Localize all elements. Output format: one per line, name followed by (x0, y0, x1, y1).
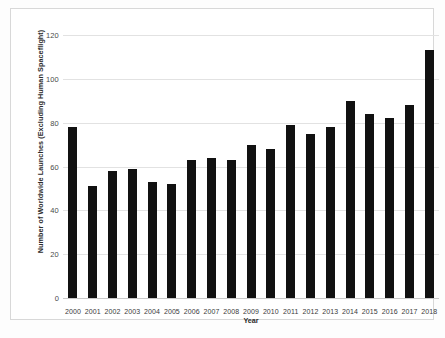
x-tick-label: 2014 (342, 308, 358, 315)
x-tick-label: 2009 (243, 308, 259, 315)
chart-frame: 020406080100120 Number of Worldwide Laun… (10, 8, 434, 320)
bar-slot (380, 35, 400, 298)
bar-slot (261, 35, 281, 298)
bar-slot (340, 35, 360, 298)
x-tick-slot: 2008 (221, 300, 241, 316)
bar-slot (202, 35, 222, 298)
x-tick-slot: 2006 (182, 300, 202, 316)
y-tick-label: 0 (25, 294, 59, 303)
x-tick-slot: 2015 (360, 300, 380, 316)
bar-slot (281, 35, 301, 298)
x-axis-title: Year (63, 316, 439, 325)
bar-slot (419, 35, 439, 298)
bar-slot (182, 35, 202, 298)
bar-slot (241, 35, 261, 298)
bar-2018[interactable] (425, 50, 434, 298)
x-tick-label: 2010 (263, 308, 279, 315)
x-tick-slot: 2011 (281, 300, 301, 316)
bar-series (63, 35, 439, 298)
bar-2006[interactable] (187, 160, 196, 298)
bar-slot (320, 35, 340, 298)
x-tick-label: 2011 (283, 308, 298, 315)
bar-slot (221, 35, 241, 298)
bar-slot (63, 35, 83, 298)
x-tick-label: 2001 (85, 308, 101, 315)
gridline-0 (63, 298, 439, 299)
bar-2010[interactable] (266, 149, 275, 298)
plot-area (63, 35, 439, 298)
x-tick-slot: 2009 (241, 300, 261, 316)
x-tick-slot: 2004 (142, 300, 162, 316)
bar-2003[interactable] (128, 169, 137, 298)
x-tick-label: 2006 (184, 308, 200, 315)
y-axis-title: Number of Worldwide Launches (Excluding … (36, 17, 45, 267)
bar-slot (360, 35, 380, 298)
x-tick-slot: 2007 (202, 300, 222, 316)
bar-2012[interactable] (306, 134, 315, 298)
x-tick-label: 2005 (164, 308, 180, 315)
x-tick-slot: 2003 (122, 300, 142, 316)
x-tick-slot: 2012 (301, 300, 321, 316)
x-tick-label: 2015 (362, 308, 378, 315)
bar-2014[interactable] (346, 101, 355, 298)
x-tick-label: 2017 (401, 308, 417, 315)
x-tick-label: 2002 (105, 308, 121, 315)
bar-2015[interactable] (365, 114, 374, 298)
x-tick-label: 2012 (302, 308, 318, 315)
bar-slot (162, 35, 182, 298)
x-tick-slot: 2000 (63, 300, 83, 316)
x-tick-slot: 2010 (261, 300, 281, 316)
bar-2002[interactable] (108, 171, 117, 298)
bar-slot (122, 35, 142, 298)
x-tick-label: 2018 (421, 308, 437, 315)
bar-2001[interactable] (88, 186, 97, 298)
x-tick-slot: 2014 (340, 300, 360, 316)
x-tick-slot: 2017 (400, 300, 420, 316)
bar-2008[interactable] (227, 160, 236, 298)
bar-slot (83, 35, 103, 298)
bar-slot (301, 35, 321, 298)
bar-2000[interactable] (68, 127, 77, 298)
x-tick-slot: 2016 (380, 300, 400, 316)
bar-2007[interactable] (207, 158, 216, 298)
bar-slot (142, 35, 162, 298)
x-tick-label: 2008 (223, 308, 239, 315)
x-tick-label: 2016 (382, 308, 398, 315)
x-tick-slot: 2005 (162, 300, 182, 316)
bar-slot (103, 35, 123, 298)
x-tick-label: 2000 (65, 308, 81, 315)
x-tick-slot: 2013 (320, 300, 340, 316)
x-tick-label: 2004 (144, 308, 160, 315)
x-axis-tick-labels: 2000200120022003200420052006200720082009… (63, 300, 439, 316)
bar-slot (400, 35, 420, 298)
x-tick-slot: 2001 (83, 300, 103, 316)
chart-figure: 020406080100120 Number of Worldwide Laun… (0, 0, 445, 338)
bar-2004[interactable] (148, 182, 157, 298)
x-tick-label: 2013 (322, 308, 338, 315)
bar-2011[interactable] (286, 125, 295, 298)
bar-2017[interactable] (405, 105, 414, 298)
x-tick-label: 2003 (124, 308, 140, 315)
x-tick-slot: 2002 (103, 300, 123, 316)
bar-2009[interactable] (247, 145, 256, 298)
x-tick-slot: 2018 (419, 300, 439, 316)
bar-2016[interactable] (385, 118, 394, 298)
x-tick-label: 2007 (203, 308, 219, 315)
bar-2005[interactable] (167, 184, 176, 298)
bar-2013[interactable] (326, 127, 335, 298)
